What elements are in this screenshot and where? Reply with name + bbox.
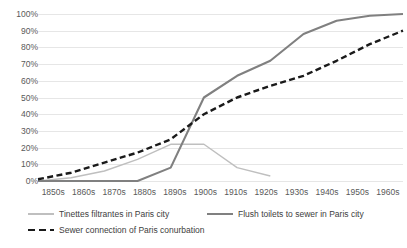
series-line [38, 31, 403, 180]
legend-row-3: Sewer connection of Paris conurbation [28, 225, 215, 235]
legend-row-1: Tinettes filtrantes in Paris city [28, 209, 179, 219]
x-axis-tick-label: 1850s [38, 183, 68, 203]
x-axis-tick-label: 1960s [373, 183, 403, 203]
x-axis-tick-label: 1900s [190, 183, 220, 203]
series-line [38, 144, 270, 181]
x-axis-tick-label: 1940s [312, 183, 342, 203]
legend-item-tinettes: Tinettes filtrantes in Paris city [28, 209, 169, 219]
x-axis-tick-label: 1860s [68, 183, 98, 203]
x-axis-tick-label: 1880s [129, 183, 159, 203]
chart-legend: Tinettes filtrantes in Paris city Flush … [0, 205, 407, 248]
chart-root: 0%10%20%30%40%50%60%70%80%90%100% 1850s1… [0, 0, 407, 248]
x-axis: 1850s1860s1870s1880s1890s1900s1910s1920s… [38, 183, 403, 203]
x-axis-tick-label: 1920s [251, 183, 281, 203]
legend-line-marker-icon [207, 209, 233, 219]
plot-area: 0%10%20%30%40%50%60%70%80%90%100% [0, 0, 407, 202]
legend-dashed-marker-icon [28, 225, 54, 235]
x-axis-tick-label: 1910s [221, 183, 251, 203]
legend-label: Sewer connection of Paris conurbation [59, 225, 205, 235]
legend-row-2: Flush toilets to sewer in Paris city [207, 209, 374, 219]
x-axis-tick-label: 1950s [342, 183, 372, 203]
series-layer [0, 0, 407, 202]
legend-line-marker-icon [28, 209, 54, 219]
legend-label: Flush toilets to sewer in Paris city [238, 209, 364, 219]
legend-item-flush-toilets: Flush toilets to sewer in Paris city [207, 209, 364, 219]
legend-item-sewer-connection: Sewer connection of Paris conurbation [28, 225, 205, 235]
x-axis-tick-label: 1870s [99, 183, 129, 203]
x-axis-tick-label: 1930s [281, 183, 311, 203]
x-axis-tick-label: 1890s [160, 183, 190, 203]
legend-label: Tinettes filtrantes in Paris city [59, 209, 169, 219]
